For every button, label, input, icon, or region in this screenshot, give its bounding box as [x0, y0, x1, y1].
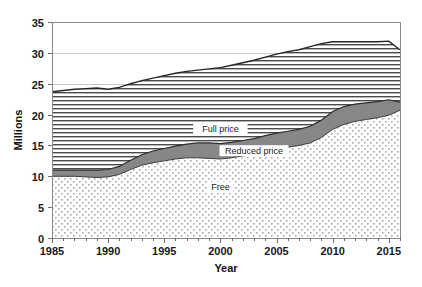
- y-tick-label: 30: [32, 48, 44, 60]
- stacked-area-chart: 05101520253035 1985199019952000200520102…: [0, 0, 422, 287]
- x-tick-label: 2010: [320, 245, 344, 257]
- chart-container: 05101520253035 1985199019952000200520102…: [0, 0, 422, 287]
- series-annotation-label: Reduced price: [225, 146, 283, 156]
- x-axis-title: Year: [214, 262, 238, 274]
- x-tick-label: 2000: [208, 245, 232, 257]
- x-tick-label: 1985: [40, 245, 64, 257]
- y-tick-label: 5: [38, 202, 44, 214]
- y-tick-label: 35: [32, 17, 44, 29]
- y-tick-label: 0: [38, 233, 44, 245]
- x-tick-label: 1995: [152, 245, 176, 257]
- y-tick-label: 25: [32, 79, 44, 91]
- y-axis-title: Millions: [12, 110, 24, 151]
- series-annotation-label: Full price: [202, 124, 239, 134]
- x-tick-label: 1990: [96, 245, 120, 257]
- x-axis: 1985199019952000200520102015: [40, 238, 401, 257]
- x-tick-label: 2005: [264, 245, 288, 257]
- y-tick-label: 20: [32, 110, 44, 122]
- y-tick-label: 10: [32, 171, 44, 183]
- series-annotation-label: Free: [211, 182, 230, 192]
- x-tick-label: 2015: [377, 245, 401, 257]
- y-tick-label: 15: [32, 140, 44, 152]
- y-axis: 05101520253035: [32, 17, 52, 245]
